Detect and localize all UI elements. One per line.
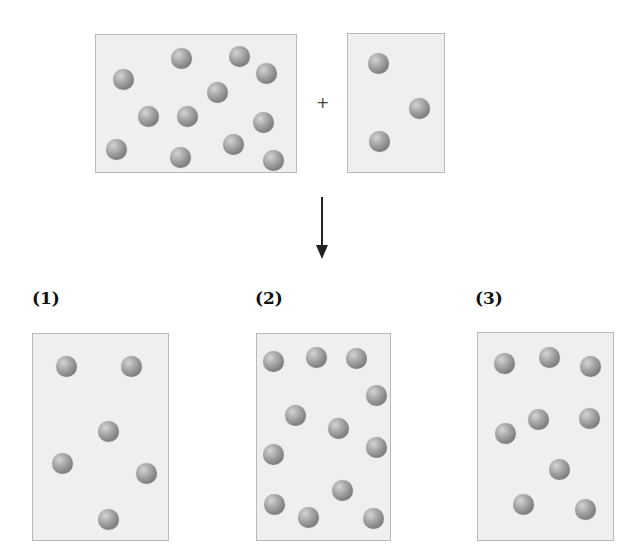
- particle-sphere-icon: [328, 418, 349, 439]
- particle-sphere-icon: [253, 112, 274, 133]
- particle-sphere-icon: [495, 423, 516, 444]
- particle-sphere-icon: [579, 408, 600, 429]
- particle-sphere-icon: [580, 356, 601, 377]
- particle-sphere-icon: [264, 494, 285, 515]
- option-label-2: (2): [255, 288, 283, 308]
- particle-sphere-icon: [306, 347, 327, 368]
- particle-sphere-icon: [369, 131, 390, 152]
- option-label-1: (1): [32, 288, 60, 308]
- particle-sphere-icon: [332, 480, 353, 501]
- particle-sphere-icon: [98, 421, 119, 442]
- particle-sphere-icon: [575, 499, 596, 520]
- particle-sphere-icon: [285, 405, 306, 426]
- particle-sphere-icon: [98, 509, 119, 530]
- particle-sphere-icon: [256, 63, 277, 84]
- particle-sphere-icon: [106, 139, 127, 160]
- particle-sphere-icon: [549, 459, 570, 480]
- option-label-3: (3): [475, 288, 503, 308]
- particle-sphere-icon: [494, 353, 515, 374]
- particle-sphere-icon: [539, 347, 560, 368]
- particle-sphere-icon: [363, 508, 384, 529]
- particle-sphere-icon: [528, 409, 549, 430]
- particle-sphere-icon: [263, 351, 284, 372]
- particle-sphere-icon: [368, 53, 389, 74]
- particle-sphere-icon: [171, 48, 192, 69]
- reactant-b-box: [347, 33, 445, 173]
- particle-sphere-icon: [263, 444, 284, 465]
- particle-sphere-icon: [298, 507, 319, 528]
- particle-sphere-icon: [223, 134, 244, 155]
- particle-sphere-icon: [177, 106, 198, 127]
- plus-sign: +: [316, 95, 329, 111]
- particle-sphere-icon: [346, 348, 367, 369]
- particle-sphere-icon: [52, 453, 73, 474]
- particle-sphere-icon: [170, 147, 191, 168]
- reaction-arrow-down-icon: [314, 195, 330, 261]
- particle-sphere-icon: [366, 385, 387, 406]
- particle-sphere-icon: [113, 69, 134, 90]
- particle-sphere-icon: [56, 356, 77, 377]
- particle-sphere-icon: [207, 82, 228, 103]
- particle-sphere-icon: [409, 98, 430, 119]
- particle-sphere-icon: [136, 463, 157, 484]
- particle-sphere-icon: [121, 356, 142, 377]
- particle-sphere-icon: [263, 150, 284, 171]
- particle-sphere-icon: [513, 494, 534, 515]
- particle-sphere-icon: [138, 106, 159, 127]
- particle-sphere-icon: [229, 46, 250, 67]
- particle-sphere-icon: [366, 437, 387, 458]
